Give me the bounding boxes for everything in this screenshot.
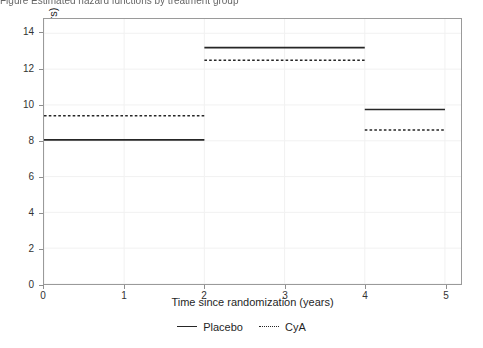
y-tick-label: 10	[8, 99, 34, 110]
y-tick-label: 6	[8, 171, 34, 182]
x-tick-mark	[365, 285, 366, 289]
x-tick-mark	[446, 285, 447, 289]
legend-item-placebo: Placebo	[177, 321, 243, 333]
y-tick-label: 4	[8, 207, 34, 218]
y-tick-label: 0	[8, 279, 34, 290]
y-tick-mark	[39, 105, 43, 106]
x-tick-label: 1	[112, 290, 136, 301]
legend-line-dotted-icon	[259, 323, 279, 331]
y-tick-label: 14	[8, 26, 34, 37]
y-tick-mark	[39, 177, 43, 178]
y-tick-mark	[39, 141, 43, 142]
y-tick-label: 8	[8, 135, 34, 146]
x-tick-mark	[124, 285, 125, 289]
y-tick-mark	[39, 249, 43, 250]
x-tick-label: 3	[273, 290, 297, 301]
chart-legend: Placebo CyA	[0, 321, 483, 333]
legend-label-placebo: Placebo	[203, 321, 243, 333]
x-tick-mark	[43, 285, 44, 289]
hazard-function-chart: Estimated hazard function (per 100 years…	[0, 0, 483, 348]
data-series-layer	[44, 19, 461, 284]
x-tick-mark	[204, 285, 205, 289]
x-axis-title: Time since randomization (years)	[43, 296, 462, 308]
y-tick-mark	[39, 213, 43, 214]
legend-label-cya: CyA	[285, 321, 306, 333]
x-tick-label: 4	[353, 290, 377, 301]
legend-item-cya: CyA	[259, 321, 306, 333]
y-tick-mark	[39, 32, 43, 33]
x-tick-mark	[285, 285, 286, 289]
legend-line-solid-icon	[177, 323, 197, 331]
x-tick-label: 5	[434, 290, 458, 301]
x-tick-label: 0	[31, 290, 55, 301]
y-tick-label: 2	[8, 243, 34, 254]
plot-area	[43, 18, 462, 285]
y-tick-mark	[39, 69, 43, 70]
x-tick-label: 2	[192, 290, 216, 301]
y-tick-label: 12	[8, 63, 34, 74]
